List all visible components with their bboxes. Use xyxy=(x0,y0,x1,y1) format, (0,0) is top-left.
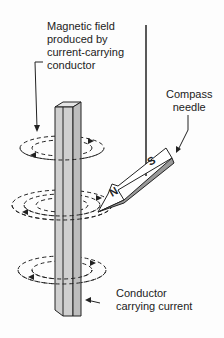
diagram: S N Magnetic field produced by current-c… xyxy=(0,0,224,338)
compass-label: Compass needle xyxy=(166,88,212,114)
field-label: Magnetic field produced by current-carry… xyxy=(47,20,124,72)
compass-needle xyxy=(98,148,174,212)
conductor-label: Conductor carrying current xyxy=(116,287,192,313)
